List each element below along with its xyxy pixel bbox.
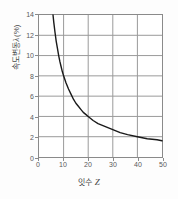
plot-area — [38, 14, 163, 158]
y-tick-mark — [35, 76, 38, 77]
y-tick-mark — [35, 55, 38, 56]
x-tick-label: 10 — [59, 161, 67, 168]
y-tick-label: 2 — [20, 134, 34, 141]
x-axis-title: 잇수Z — [0, 176, 178, 187]
x-tick-label: 40 — [134, 161, 142, 168]
x-tick-label: 0 — [36, 161, 40, 168]
data-curve — [39, 15, 162, 157]
y-tick-label: 8 — [20, 72, 34, 79]
x-axis-title-symbol: Z — [93, 177, 100, 187]
y-tick-label: 14 — [20, 11, 34, 18]
y-tick-label: 12 — [20, 31, 34, 38]
y-tick-mark — [35, 158, 38, 159]
y-axis-title-text: 속도변동 — [12, 42, 21, 70]
x-tick-label: 50 — [159, 161, 167, 168]
y-tick-mark — [35, 137, 38, 138]
y-tick-mark — [35, 117, 38, 118]
y-axis-title-unit: (%) — [12, 25, 21, 37]
chart-container: 01020304050 02468101214 잇수Z 속도변동λ(%) — [0, 0, 178, 199]
y-axis-title-symbol: λ — [12, 37, 21, 42]
y-axis-title: 속도변동λ(%) — [10, 0, 21, 113]
y-tick-label: 4 — [20, 113, 34, 120]
x-tick-label: 30 — [109, 161, 117, 168]
y-tick-label: 0 — [20, 155, 34, 162]
y-tick-mark — [35, 96, 38, 97]
x-tick-label: 20 — [84, 161, 92, 168]
y-tick-mark — [35, 35, 38, 36]
y-tick-mark — [35, 14, 38, 15]
series-line — [53, 15, 162, 141]
x-axis-title-text: 잇수 — [78, 178, 93, 187]
y-tick-label: 10 — [20, 52, 34, 59]
y-tick-label: 6 — [20, 93, 34, 100]
